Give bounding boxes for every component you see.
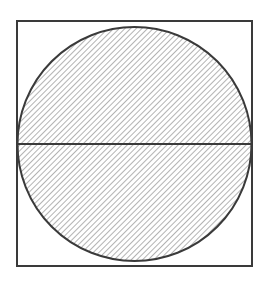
inscribed-circle-diagram <box>0 0 268 282</box>
